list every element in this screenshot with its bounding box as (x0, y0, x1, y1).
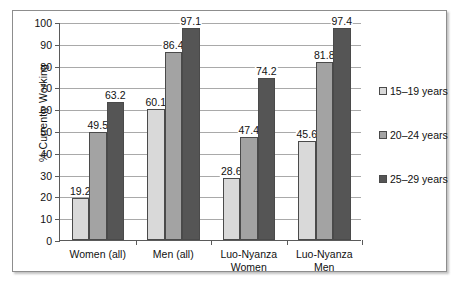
y-axis-tick-label: 30 (40, 170, 52, 182)
x-axis-category-label: Luo-NyanzaWomen (220, 248, 277, 273)
x-axis-category-label: Luo-NyanzaMen (296, 248, 353, 273)
chart-legend: 15–19 years20–24 years25–29 years (379, 69, 451, 201)
bar (89, 132, 107, 240)
y-axis-tick-label: 60 (40, 104, 52, 116)
gridline (60, 23, 361, 24)
y-axis-tick-label: 50 (40, 126, 52, 138)
legend-swatch-icon (379, 175, 387, 183)
bar (316, 62, 334, 240)
bar (107, 102, 125, 240)
bar (165, 52, 183, 240)
y-axis-tick-mark (55, 176, 60, 177)
x-axis-tick-mark (136, 240, 137, 245)
x-axis-category-label: Men (all) (153, 248, 194, 261)
y-axis-tick-label: 90 (40, 39, 52, 51)
bar (258, 78, 276, 240)
y-axis-tick-label: 100 (34, 17, 52, 29)
legend-item-label: 25–29 years (390, 173, 448, 185)
legend-swatch-icon (379, 131, 387, 139)
legend-swatch-icon (379, 87, 387, 95)
y-axis-tick-label: 20 (40, 191, 52, 203)
bar-value-label: 97.1 (180, 16, 202, 27)
y-axis-tick-mark (55, 241, 60, 242)
y-axis-tick-mark (55, 88, 60, 89)
bar (72, 198, 90, 240)
chart-figure-frame: % Currently Working 01020304050607080901… (12, 10, 447, 272)
legend-item-label: 15–19 years (390, 85, 448, 97)
y-axis-tick-label: 0 (46, 235, 52, 247)
y-axis-tick-mark (55, 197, 60, 198)
y-axis-tick-label: 10 (40, 213, 52, 225)
plot-area: 0102030405060708090100 19.249.563.260.18… (59, 23, 361, 241)
bar (147, 109, 165, 240)
bar-value-label: 63.2 (104, 90, 126, 101)
bar (223, 178, 241, 240)
x-axis-tick-mark (287, 240, 288, 245)
bar (333, 28, 351, 240)
y-axis-tick-mark (55, 132, 60, 133)
y-axis-tick-mark (55, 154, 60, 155)
x-axis-tick-mark (211, 240, 212, 245)
y-axis-tick-mark (55, 23, 60, 24)
y-axis-tick-label: 80 (40, 61, 52, 73)
y-axis-tick-label: 40 (40, 148, 52, 160)
x-axis-tick-mark (362, 240, 363, 245)
x-axis-category-label: Women (all) (70, 248, 126, 261)
bar (240, 137, 258, 240)
legend-item-label: 20–24 years (390, 129, 448, 141)
legend-item: 15–19 years (379, 69, 451, 113)
bar-value-label: 74.2 (255, 66, 277, 77)
bar (298, 141, 316, 240)
y-axis-tick-mark (55, 45, 60, 46)
y-axis-tick-mark (55, 219, 60, 220)
gridline (60, 45, 361, 46)
y-axis-tick-label: 70 (40, 82, 52, 94)
y-axis-tick-mark (55, 110, 60, 111)
legend-item: 25–29 years (379, 157, 451, 201)
bar-value-label: 97.4 (331, 16, 353, 27)
y-axis-tick-mark (55, 67, 60, 68)
bar (182, 28, 200, 240)
legend-item: 20–24 years (379, 113, 451, 157)
